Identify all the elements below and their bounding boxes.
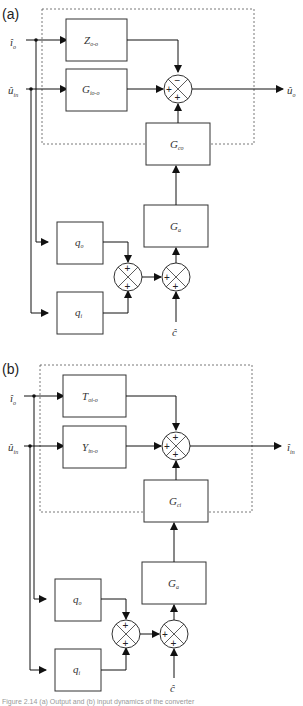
signal-top-to-sum — [127, 40, 178, 72]
svg-text:+: + — [164, 441, 170, 452]
summing-junction-left: + + — [114, 263, 142, 292]
input-io-label: îo — [10, 36, 16, 50]
figure-caption: Figure 2.14 (a) Output and (b) input dyn… — [2, 698, 195, 706]
block-y-ino — [63, 426, 126, 468]
signal-top-to-sum — [126, 396, 176, 430]
svg-text:+: + — [173, 281, 179, 292]
signal-qo-to-sum — [103, 242, 128, 262]
svg-text:+: + — [171, 638, 177, 649]
block-z-oo — [66, 19, 127, 61]
input-uin-label: ûin — [8, 441, 18, 455]
block-t-oio — [63, 375, 126, 417]
input-uin-label: ûin — [8, 84, 18, 98]
summing-junction-right: + + — [162, 263, 190, 292]
summing-junction-main: − + + — [164, 75, 192, 103]
panel-b-label: (b) — [2, 361, 19, 377]
svg-text:−: − — [175, 75, 181, 86]
svg-text:+: + — [125, 281, 131, 292]
summing-junction-left: + + — [112, 620, 140, 649]
output-uo-label: ûo — [287, 84, 296, 98]
signal-qi-to-sum — [103, 291, 128, 313]
panel-a-label: (a) — [2, 6, 19, 22]
input-io-label: îo — [10, 392, 16, 406]
signal-qi-to-sum — [101, 648, 126, 670]
svg-text:+: + — [164, 272, 170, 283]
summing-junction-main: + + + — [162, 432, 190, 460]
summing-junction-right: + + — [160, 620, 188, 649]
block-g-co — [146, 123, 210, 165]
signal-uin-to-qi — [30, 446, 46, 670]
disturbance-c-label: ĉ — [172, 326, 177, 338]
svg-text:+: + — [162, 629, 168, 640]
disturbance-c-label: ĉ — [170, 682, 175, 694]
svg-text:+: + — [123, 638, 129, 649]
svg-text:+: + — [173, 449, 179, 460]
svg-text:+: + — [173, 432, 179, 443]
output-iin-label: îin — [287, 441, 295, 455]
svg-text:+: + — [175, 92, 181, 103]
block-diagram-figure: (a) îo ûin Zo-o Gio-o − + + ûo — [0, 0, 303, 706]
svg-text:+: + — [166, 84, 172, 95]
signal-uin-to-qi — [31, 89, 48, 313]
svg-text:+: + — [125, 263, 131, 274]
svg-text:+: + — [123, 620, 129, 631]
panel-a: (a) îo ûin Zo-o Gio-o − + + ûo — [2, 6, 296, 338]
panel-b: (b) îo ûin Toi-o Yin-o + + + îin Gci Ga — [2, 361, 295, 694]
signal-qo-to-sum — [101, 599, 126, 619]
